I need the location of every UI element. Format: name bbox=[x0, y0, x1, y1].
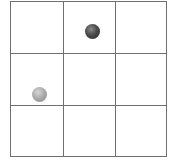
game-board bbox=[10, 1, 167, 157]
cell-2-1[interactable] bbox=[63, 106, 115, 158]
cell-2-0[interactable] bbox=[11, 106, 63, 158]
cell-0-1[interactable] bbox=[63, 2, 115, 54]
dark-ball-icon[interactable] bbox=[85, 24, 100, 39]
cell-2-2[interactable] bbox=[115, 106, 167, 158]
cell-0-2[interactable] bbox=[115, 2, 167, 54]
cell-0-0[interactable] bbox=[11, 2, 63, 54]
cell-1-2[interactable] bbox=[115, 54, 167, 106]
cell-1-1[interactable] bbox=[63, 54, 115, 106]
light-ball-icon[interactable] bbox=[32, 87, 47, 102]
cell-1-0[interactable] bbox=[11, 54, 63, 106]
